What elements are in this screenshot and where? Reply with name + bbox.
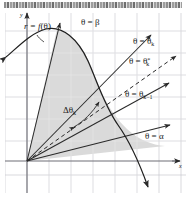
label-theta-equals-theta-k: θ = θk <box>133 37 154 47</box>
y-axis-label: y <box>20 12 23 18</box>
label-theta-equals-alpha: θ = α <box>145 132 164 141</box>
label-delta-theta-k: Δθk <box>63 106 76 116</box>
beta-eq: = <box>85 17 95 27</box>
thetakstar-sub: k <box>146 61 149 67</box>
x-axis-label: x <box>179 163 182 169</box>
thetak-sub: k <box>151 41 154 47</box>
curve-label-eq: = <box>28 21 39 31</box>
label-theta-equals-beta: θ = β <box>81 18 99 27</box>
delta-sub: k <box>73 110 76 116</box>
curve-equation-label: r = f(θ) <box>24 22 51 31</box>
figure-container: y x r = f(θ) θ = β θ = θk θ = θ*k θ = θk… <box>0 0 191 201</box>
scan-noise-strip <box>4 2 182 8</box>
polar-diagram-plot <box>0 9 191 201</box>
label-theta-equals-theta-k-star: θ = θ*k <box>129 57 149 67</box>
delta-lhs: Δθ <box>63 105 73 115</box>
diagram-svg <box>0 9 191 201</box>
beta-rhs: β <box>95 17 100 27</box>
thetakstar-eq: = <box>133 56 143 66</box>
alpha-eq: = <box>149 131 159 141</box>
label-theta-equals-theta-k-minus-1: θ = θk−1 <box>125 90 153 100</box>
alpha-rhs: α <box>159 131 164 141</box>
curve-label-arg: (θ) <box>41 21 51 31</box>
thetakm1-eq: = <box>129 89 139 99</box>
thetakm1-sub: k−1 <box>143 94 152 100</box>
thetak-eq: = <box>137 36 147 46</box>
